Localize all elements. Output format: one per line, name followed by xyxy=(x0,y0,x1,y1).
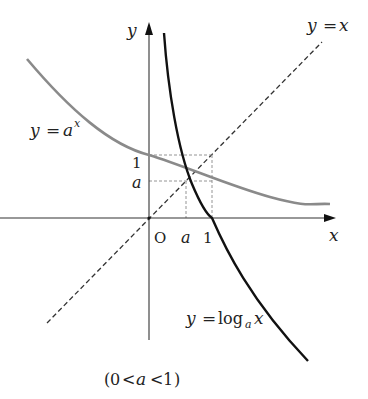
svg-text:y: y xyxy=(306,15,317,35)
svg-text:y: y xyxy=(29,120,40,140)
logarithm-label: y = log a x xyxy=(185,308,264,331)
svg-text:1: 1 xyxy=(163,370,173,389)
y-axis-arrow-icon xyxy=(145,22,153,35)
svg-text:log: log xyxy=(218,309,243,328)
svg-text:<: < xyxy=(122,370,135,389)
x-axis-arrow-icon xyxy=(324,214,336,222)
svg-text:a: a xyxy=(63,120,73,140)
exponential-label: y = a x xyxy=(29,117,81,140)
x-tick-1: 1 xyxy=(203,229,213,247)
condition-caption: ( 0 < a < 1 ) xyxy=(104,369,180,389)
svg-text:x: x xyxy=(74,117,81,130)
origin-label: O xyxy=(154,229,166,247)
svg-text:y: y xyxy=(185,308,196,328)
svg-text:<: < xyxy=(150,370,163,389)
svg-text:a: a xyxy=(245,318,252,331)
svg-text:=: = xyxy=(202,308,216,328)
y-tick-1: 1 xyxy=(132,154,142,172)
svg-text:a: a xyxy=(136,369,146,389)
svg-text:=: = xyxy=(46,120,60,140)
y-axis-label: y xyxy=(126,20,137,40)
svg-text:x: x xyxy=(254,308,264,328)
svg-text:): ) xyxy=(174,370,180,389)
identity-line xyxy=(47,42,322,323)
x-tick-a: a xyxy=(181,228,191,247)
origin-point xyxy=(147,216,150,219)
y-tick-a: a xyxy=(132,173,142,192)
function-diagram: y x O a 1 1 a y = a x y = x y = log a x … xyxy=(0,0,368,399)
x-axis-label: x xyxy=(329,225,339,245)
svg-text:=: = xyxy=(323,15,337,35)
svg-text:x: x xyxy=(339,15,349,35)
identity-label: y = x xyxy=(306,15,349,35)
svg-text:0: 0 xyxy=(110,370,120,389)
